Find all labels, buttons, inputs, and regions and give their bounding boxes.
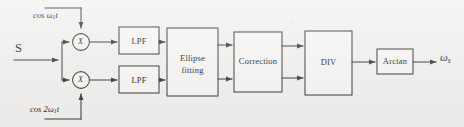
carrier-top-label: cos ω1t	[33, 11, 58, 21]
block-lpf-top-label: LPF	[119, 37, 159, 46]
carrier-bottom-label: cos 2ω1t	[30, 105, 59, 115]
block-ellipse-fitting-label-line1: Ellipse	[167, 52, 218, 64]
carrier-bottom-suffix: t	[57, 104, 59, 114]
block-div-label: DIV	[305, 58, 352, 67]
output-signal-label: ωs	[440, 52, 451, 64]
output-subscript: s	[448, 56, 451, 65]
output-omega: ω	[440, 51, 448, 63]
carrier-top-suffix: t	[55, 10, 57, 20]
block-ellipse-fitting-label: Ellipse fitting	[167, 52, 218, 77]
input-signal-label: S	[15, 42, 22, 55]
block-lpf-bottom-label: LPF	[119, 76, 159, 85]
carrier-bottom-prefix: cos 2	[30, 104, 48, 114]
block-ellipse-fitting-label-line2: fitting	[167, 64, 218, 76]
block-diagram-figure: S cos ω1t cos 2ω1t X X LPF LPF Ellipse f…	[0, 0, 464, 127]
multiplier-top-symbol: X	[78, 38, 83, 46]
multiplier-bottom-symbol: X	[78, 76, 83, 84]
block-correction-label: Correction	[234, 57, 282, 66]
carrier-top-prefix: cos	[33, 10, 46, 20]
block-arctan-label: Arctan	[377, 57, 413, 66]
